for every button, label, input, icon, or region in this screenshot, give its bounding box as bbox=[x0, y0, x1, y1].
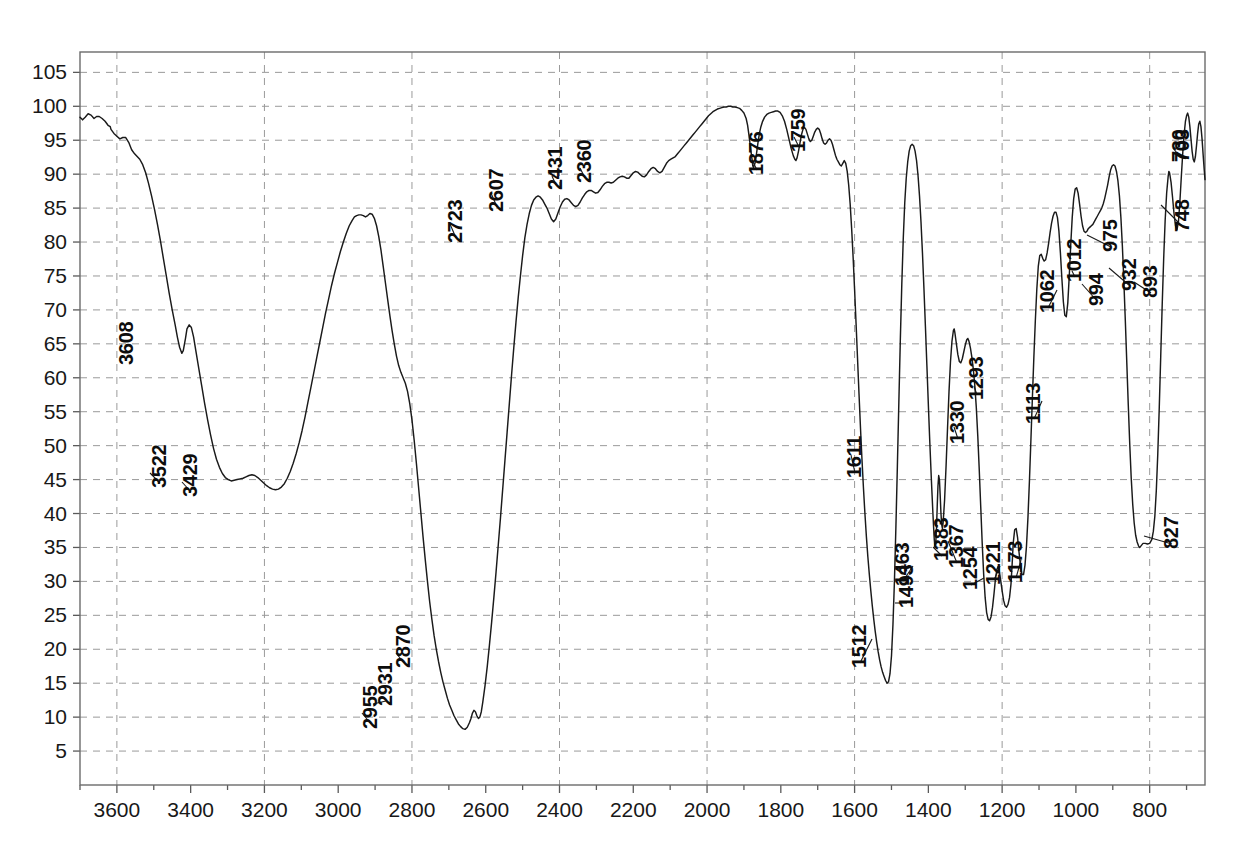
y-axis-tick-label: 5 bbox=[55, 739, 67, 762]
y-axis-tick-label: 40 bbox=[44, 502, 67, 525]
peak-label-1173: 1173 bbox=[1004, 541, 1026, 583]
y-axis-tick-label: 80 bbox=[44, 230, 67, 253]
peak-label-1113: 1113 bbox=[1022, 383, 1044, 424]
ir-spectrum-figure: 5101520253035404550556065707580859095100… bbox=[0, 0, 1256, 850]
peak-label-2431: 2431 bbox=[544, 147, 566, 190]
x-axis-tick-labels: 3600340032003000280026002400220020001800… bbox=[94, 798, 1168, 821]
y-axis-tick-label: 35 bbox=[44, 535, 67, 558]
x-axis-tick-label: 1800 bbox=[757, 798, 804, 821]
peak-label-1876: 1876 bbox=[745, 132, 767, 175]
y-axis-tick-label: 95 bbox=[44, 128, 67, 151]
y-axis-tick-label: 45 bbox=[44, 468, 67, 491]
peak-label-1759: 1759 bbox=[787, 109, 809, 152]
peak-label-827: 827 bbox=[1160, 516, 1182, 549]
y-axis-tick-label: 50 bbox=[44, 434, 67, 457]
peak-label-1062: 1062 bbox=[1036, 270, 1058, 313]
y-axis-tick-label: 90 bbox=[44, 162, 67, 185]
peak-label-932: 932 bbox=[1118, 258, 1140, 291]
y-axis-tick-label: 25 bbox=[44, 603, 67, 626]
peak-label-748: 748 bbox=[1171, 199, 1193, 232]
x-axis-tick-label: 1600 bbox=[831, 798, 878, 821]
y-axis-tick-label: 75 bbox=[44, 264, 67, 287]
peak-label-3522: 3522 bbox=[148, 445, 170, 488]
peak-label-2723: 2723 bbox=[444, 200, 466, 243]
x-axis-tick-label: 3400 bbox=[167, 798, 214, 821]
peak-label-893: 893 bbox=[1139, 265, 1161, 298]
peak-label-1293: 1293 bbox=[965, 357, 987, 400]
peak-label-2360: 2360 bbox=[573, 140, 595, 183]
y-axis-tick-label: 70 bbox=[44, 298, 67, 321]
peak-label-1254: 1254 bbox=[959, 546, 981, 590]
x-axis-tick-label: 3200 bbox=[241, 798, 288, 821]
peak-label-975: 975 bbox=[1099, 219, 1121, 252]
peak-label-2607: 2607 bbox=[485, 169, 507, 212]
figure-background bbox=[0, 0, 1256, 850]
peak-label-994: 994 bbox=[1085, 272, 1107, 306]
peak-label-1012: 1012 bbox=[1063, 239, 1085, 282]
y-axis-tick-label: 60 bbox=[44, 366, 67, 389]
peak-label-2931: 2931 bbox=[374, 663, 396, 706]
x-axis-tick-label: 1400 bbox=[905, 798, 952, 821]
x-axis-tick-label: 2400 bbox=[536, 798, 583, 821]
x-axis-tick-label: 3600 bbox=[94, 798, 141, 821]
y-axis-tick-label: 65 bbox=[44, 332, 67, 355]
x-axis-tick-label: 2800 bbox=[389, 798, 436, 821]
x-axis-tick-label: 2200 bbox=[610, 798, 657, 821]
y-axis-tick-label: 55 bbox=[44, 400, 67, 423]
x-axis-tick-label: 2600 bbox=[462, 798, 509, 821]
peak-label-1611: 1611 bbox=[843, 436, 865, 478]
peak-label-2870: 2870 bbox=[392, 625, 414, 668]
peak-label-1221: 1221 bbox=[982, 542, 1004, 585]
x-axis-tick-label: 1200 bbox=[979, 798, 1026, 821]
x-axis-tick-label: 800 bbox=[1132, 798, 1167, 821]
x-axis-tick-label: 1000 bbox=[1053, 798, 1100, 821]
y-axis-tick-label: 15 bbox=[44, 671, 67, 694]
y-axis-tick-label: 30 bbox=[44, 569, 67, 592]
y-axis-tick-label: 20 bbox=[44, 637, 67, 660]
y-axis-tick-label: 10 bbox=[44, 705, 67, 728]
spectrum-canvas: 5101520253035404550556065707580859095100… bbox=[0, 0, 1256, 850]
x-axis-tick-label: 3000 bbox=[315, 798, 362, 821]
peak-label-1463: 1463 bbox=[891, 543, 913, 586]
peak-label-3429: 3429 bbox=[179, 454, 201, 497]
peak-label-1330: 1330 bbox=[946, 401, 968, 444]
x-axis-tick-label: 2000 bbox=[684, 798, 731, 821]
y-axis-tick-label: 85 bbox=[44, 196, 67, 219]
peak-label-703: 703 bbox=[1171, 129, 1193, 162]
peak-label-3608: 3608 bbox=[115, 322, 137, 365]
y-axis-tick-label: 100 bbox=[32, 94, 67, 117]
y-axis-tick-label: 105 bbox=[32, 60, 67, 83]
peak-label-1512: 1512 bbox=[848, 625, 870, 668]
